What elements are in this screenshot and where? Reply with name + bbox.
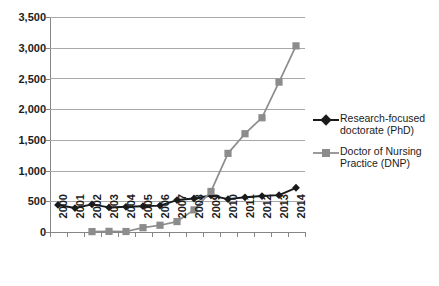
legend-label-phd: Research-focused doctorate (PhD) (339, 112, 425, 136)
y-axis-tick-label: 2,000 (2, 104, 46, 115)
x-axis-tick-label: 2004 (126, 194, 137, 240)
data-point-square (241, 130, 248, 137)
data-point-square (258, 114, 265, 121)
x-axis-tick-label: 2012 (262, 194, 273, 240)
y-axis-labels: 3,500 3,000 2,500 2,000 1,500 1,000 500 … (0, 0, 46, 286)
x-axis-tick-label: 2006 (160, 194, 171, 240)
data-point-square (292, 42, 299, 49)
y-axis-tick-label: 0 (2, 227, 46, 238)
y-axis-tick-label: 500 (2, 196, 46, 207)
x-axis-tick-label: 2009 (211, 194, 222, 240)
data-point-square (224, 150, 231, 157)
y-axis-tick-label: 3,000 (2, 43, 46, 54)
legend-label-phd-line2: doctorate (PhD) (340, 124, 414, 136)
legend-label-dnp-line2: Practice (DNP) (340, 157, 410, 169)
x-axis-tick-label: 2003 (109, 194, 120, 240)
legend-item-phd[interactable]: Research-focused doctorate (PhD) (313, 112, 439, 136)
legend-item-dnp[interactable]: Doctor of Nursing Practice (DNP) (313, 145, 439, 169)
y-axis-tick-label: 1,000 (2, 166, 46, 177)
x-axis-tick-label: 2010 (228, 194, 239, 240)
data-point-square (275, 79, 282, 86)
x-axis-tick-label: 2008 (194, 194, 205, 240)
y-axis-tick-label: 2,500 (2, 74, 46, 85)
chart-legend: Research-focused doctorate (PhD) Doctor … (313, 112, 439, 178)
chart-figure: 3,500 3,000 2,500 2,000 1,500 1,000 500 … (0, 0, 439, 286)
legend-label-dnp: Doctor of Nursing Practice (DNP) (339, 145, 422, 169)
x-axis-tick-label: 2013 (279, 194, 290, 240)
legend-label-dnp-line1: Doctor of Nursing (340, 145, 422, 157)
data-point-diamond (292, 184, 300, 192)
x-axis-tick (50, 232, 51, 237)
x-axis-tick-label: 2007 (177, 194, 188, 240)
x-axis-tick-label: 2014 (296, 194, 307, 240)
x-axis-tick-label: 2000 (58, 194, 69, 240)
x-axis-tick-label: 2002 (92, 194, 103, 240)
legend-label-phd-line1: Research-focused (340, 112, 425, 124)
legend-marker-diamond-icon (313, 113, 339, 126)
y-axis-tick-label: 3,500 (2, 12, 46, 23)
legend-marker-square-icon (313, 146, 339, 159)
x-axis-tick-label: 2001 (75, 194, 86, 240)
y-axis-tick-label: 1,500 (2, 135, 46, 146)
x-axis-tick-label: 2005 (143, 194, 154, 240)
x-axis-tick-label: 2011 (245, 194, 256, 240)
